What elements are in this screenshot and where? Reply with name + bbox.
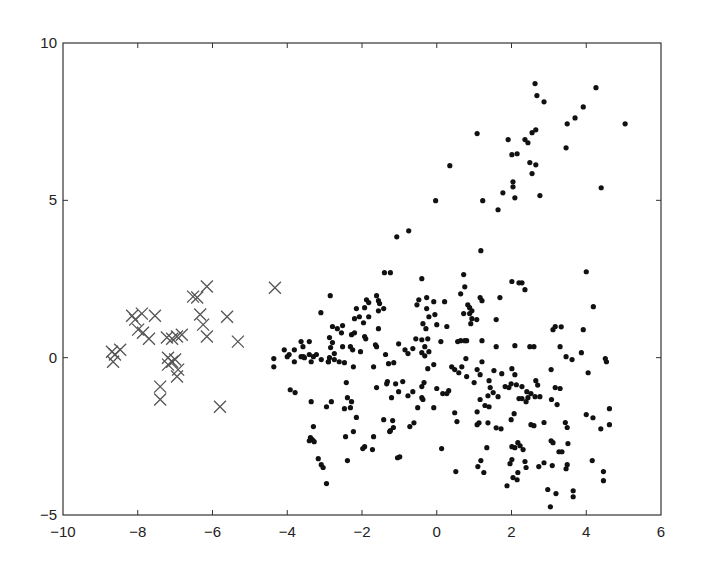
data-point-dot <box>271 364 276 369</box>
data-point-dot <box>480 198 485 203</box>
data-point-dot <box>510 179 515 184</box>
data-point-dot <box>439 446 444 451</box>
data-point-dot <box>335 326 340 331</box>
x-tick-label: −10 <box>50 523 75 540</box>
data-point-dot <box>563 354 568 359</box>
data-point-dot <box>484 445 489 450</box>
data-point-cross <box>169 354 181 366</box>
data-point-dot <box>307 438 312 443</box>
data-point-cross <box>143 333 155 345</box>
data-point-dot <box>388 270 393 275</box>
data-point-dot <box>500 190 505 195</box>
data-point-dot <box>419 384 424 389</box>
data-point-dot <box>376 326 381 331</box>
data-point-dot <box>565 121 570 126</box>
data-point-dot <box>522 287 527 292</box>
data-point-dot <box>349 399 354 404</box>
data-point-dot <box>464 374 469 379</box>
data-point-dot <box>462 338 467 343</box>
data-point-dot <box>506 137 511 142</box>
data-point-dot <box>302 355 307 360</box>
data-point-dot <box>381 306 386 311</box>
data-point-dot <box>444 324 449 329</box>
data-point-dot <box>292 347 297 352</box>
data-point-dot <box>519 280 524 285</box>
data-point-dot <box>519 384 524 389</box>
data-point-dot <box>528 391 533 396</box>
data-point-dot <box>494 425 499 430</box>
data-point-dot <box>509 279 514 284</box>
data-point-dot <box>491 368 496 373</box>
data-point-dot <box>537 193 542 198</box>
axis-ticks <box>63 43 661 515</box>
data-point-dot <box>475 422 480 427</box>
data-point-dot <box>507 461 512 466</box>
data-point-dot <box>475 464 480 469</box>
data-point-dot <box>386 361 391 366</box>
data-point-dot <box>332 357 337 362</box>
data-point-dot <box>475 409 480 414</box>
data-point-dot <box>579 350 584 355</box>
data-point-dot <box>494 344 499 349</box>
data-point-dot <box>420 321 425 326</box>
data-point-dot <box>527 160 532 165</box>
data-point-dot <box>371 434 376 439</box>
data-point-dot <box>494 317 499 322</box>
data-point-dot <box>559 324 564 329</box>
data-point-dot <box>461 272 466 277</box>
data-point-dot <box>328 293 333 298</box>
data-point-dot <box>447 163 452 168</box>
series-cross-markers <box>106 281 281 413</box>
data-point-dot <box>557 344 562 349</box>
data-point-dot <box>468 321 473 326</box>
data-point-dot <box>563 420 568 425</box>
data-point-dot <box>419 276 424 281</box>
data-point-dot <box>509 152 514 157</box>
data-point-dot <box>395 455 400 460</box>
data-point-dot <box>425 336 430 341</box>
data-point-dot <box>548 504 553 509</box>
data-point-dot <box>354 415 359 420</box>
data-point-dot <box>442 299 447 304</box>
data-point-dot <box>390 418 395 423</box>
data-point-dot <box>410 346 415 351</box>
x-tick-label: 4 <box>582 523 590 540</box>
data-point-dot <box>383 352 388 357</box>
data-point-dot <box>328 345 333 350</box>
data-point-dot <box>376 308 381 313</box>
data-point-dot <box>271 356 276 361</box>
data-point-dot <box>431 299 436 304</box>
data-point-dot <box>553 491 558 496</box>
data-point-dot <box>420 397 425 402</box>
data-point-dot <box>549 367 554 372</box>
data-point-dot <box>309 399 314 404</box>
data-point-dot <box>414 302 419 307</box>
data-point-cross <box>154 394 166 406</box>
data-point-dot <box>424 295 429 300</box>
x-tick-label: 2 <box>507 523 515 540</box>
data-point-dot <box>339 330 344 335</box>
data-point-dot <box>288 387 293 392</box>
data-point-dot <box>419 337 424 342</box>
data-point-cross <box>269 282 281 294</box>
data-point-dot <box>545 487 550 492</box>
data-point-dot <box>623 121 628 126</box>
y-tick-labels: −50510 <box>40 34 57 523</box>
data-point-dot <box>512 445 517 450</box>
data-point-dot <box>479 338 484 343</box>
data-point-dot <box>396 389 401 394</box>
data-point-dot <box>453 469 458 474</box>
data-point-dot <box>374 293 379 298</box>
data-point-dot <box>463 356 468 361</box>
x-tick-label: −8 <box>129 523 146 540</box>
data-point-dot <box>405 393 410 398</box>
data-point-dot <box>522 459 527 464</box>
data-point-dot <box>498 426 503 431</box>
data-point-dot <box>362 305 367 310</box>
data-point-dot <box>598 426 603 431</box>
data-point-dot <box>434 386 439 391</box>
data-point-dot <box>411 420 416 425</box>
data-point-dot <box>316 456 321 461</box>
data-point-dot <box>348 405 353 410</box>
data-point-dot <box>495 394 500 399</box>
